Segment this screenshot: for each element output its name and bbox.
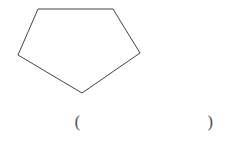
- answer-open-paren: (: [74, 112, 81, 132]
- pentagon-shape: [18, 9, 140, 93]
- answer-blank: [84, 114, 204, 132]
- answer-close-paren: ): [207, 112, 214, 132]
